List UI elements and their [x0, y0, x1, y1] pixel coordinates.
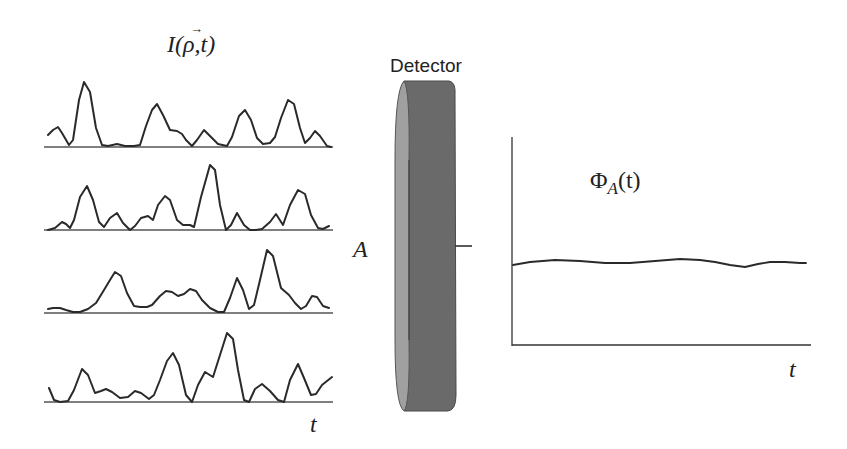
intensity-traces	[44, 82, 333, 402]
flux-title: ΦA(t)	[590, 167, 641, 198]
flux-trace	[513, 259, 806, 267]
speckle-detector-diagram: I(ρ,t) → t Detector A ΦA(t) t	[0, 0, 847, 449]
detector-front-face	[395, 81, 409, 411]
intensity-trace-2	[48, 165, 329, 230]
vector-arrow-icon: →	[190, 21, 203, 36]
intensity-trace-1	[48, 82, 331, 147]
right-time-label: t	[789, 356, 797, 382]
intensity-trace-4	[49, 333, 332, 402]
intensity-trace-3	[48, 250, 329, 312]
area-label: A	[351, 236, 368, 262]
detector-label: Detector	[390, 55, 462, 76]
left-panel-title: I(ρ,t) →	[166, 21, 215, 57]
flux-plot: ΦA(t) t	[512, 137, 811, 382]
detector-body	[404, 81, 456, 411]
detector: Detector A	[351, 55, 472, 411]
left-time-label: t	[310, 411, 318, 437]
